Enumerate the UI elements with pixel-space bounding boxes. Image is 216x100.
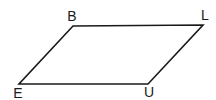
parallelogram-shape bbox=[19, 25, 203, 84]
parallelogram-diagram: B L U E bbox=[0, 0, 216, 100]
vertex-label-u: U bbox=[144, 84, 154, 100]
vertex-label-b: B bbox=[67, 8, 76, 24]
vertex-label-l: L bbox=[201, 7, 209, 23]
vertex-label-e: E bbox=[13, 85, 22, 100]
